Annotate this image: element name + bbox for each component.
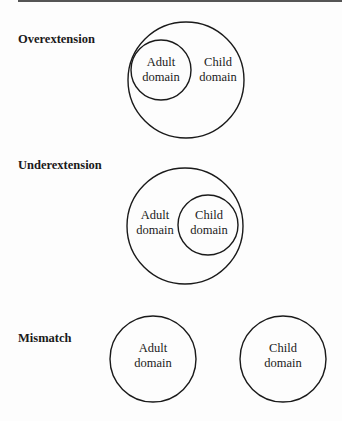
child-domain-text-line1: Child <box>204 55 233 69</box>
overextension-diagram: Adult domain Child domain <box>128 22 244 138</box>
child-domain-text-line2: domain <box>190 223 228 237</box>
adult-domain-text-line2: domain <box>136 223 174 237</box>
underextension-diagram: Adult domain Child domain <box>127 168 243 284</box>
adult-domain-text-line2: domain <box>142 70 180 84</box>
adult-domain-text-line1: Adult <box>147 55 176 69</box>
venn-diagrams: Adult domain Child domain Adult domain C… <box>0 0 342 421</box>
mismatch-diagram: Adult domain Child domain <box>110 316 326 402</box>
child-domain-text-line1: Child <box>269 341 298 355</box>
child-domain-text-line2: domain <box>199 70 237 84</box>
adult-domain-text-line1: Adult <box>141 208 170 222</box>
child-domain-text-line2: domain <box>264 356 302 370</box>
adult-domain-text-line1: Adult <box>139 341 168 355</box>
child-domain-text-line1: Child <box>195 208 224 222</box>
adult-domain-text-line2: domain <box>134 356 172 370</box>
